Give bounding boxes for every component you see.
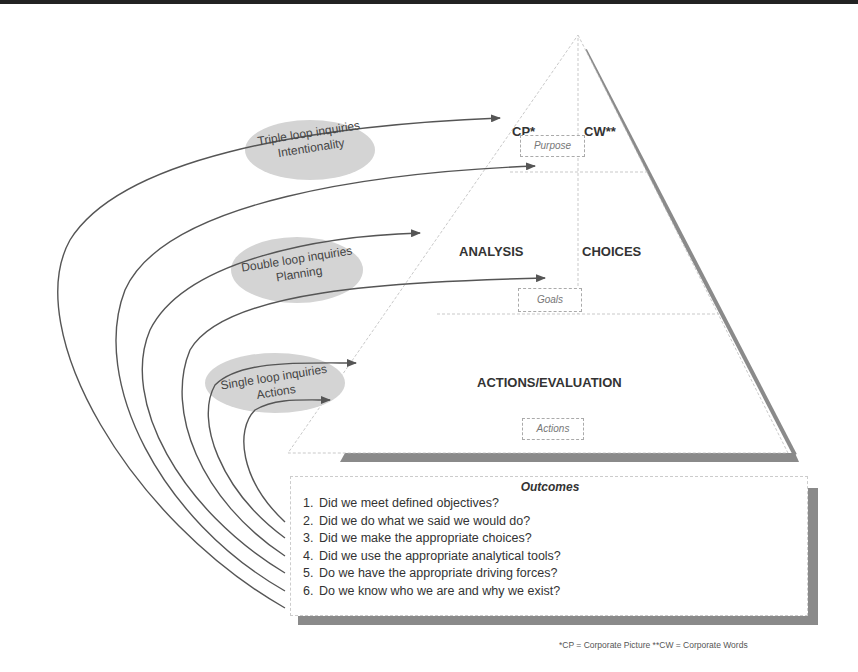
choices-label: CHOICES xyxy=(582,244,641,259)
footnote: *CP = Corporate Picture **CW = Corporate… xyxy=(559,640,748,650)
outcomes-title: Outcomes xyxy=(291,480,809,494)
outcome-text: Did we do what we said we would do? xyxy=(319,514,530,528)
outcome-text: Do we have the appropriate driving force… xyxy=(319,566,557,580)
outcome-item: 5.Do we have the appropriate driving for… xyxy=(303,565,561,583)
outcome-item: 1.Did we meet defined objectives? xyxy=(303,495,561,513)
pyramid xyxy=(288,35,788,453)
outcome-num: 1. xyxy=(303,495,319,513)
outcome-num: 6. xyxy=(303,583,319,601)
outcome-text: Did we meet defined objectives? xyxy=(319,496,499,510)
outcome-text: Do we know who we are and why we exist? xyxy=(319,584,560,598)
outcome-item: 3.Did we make the appropriate choices? xyxy=(303,530,561,548)
outcome-text: Did we use the appropriate analytical to… xyxy=(319,549,561,563)
analysis-label: ANALYSIS xyxy=(459,244,524,259)
outcomes-shadow-bottom xyxy=(298,615,818,625)
outcome-text: Did we make the appropriate choices? xyxy=(319,531,532,545)
outcome-item: 6.Do we know who we are and why we exist… xyxy=(303,583,561,601)
actions-box: Actions xyxy=(522,418,584,440)
outcome-num: 4. xyxy=(303,548,319,566)
actions-evaluation-label: ACTIONS/EVALUATION xyxy=(477,375,622,390)
outcome-item: 2.Did we do what we said we would do? xyxy=(303,513,561,531)
cw-label: CW** xyxy=(584,124,616,139)
outcome-num: 3. xyxy=(303,530,319,548)
outcomes-box: Outcomes 1.Did we meet defined objective… xyxy=(290,476,808,616)
outcome-num: 2. xyxy=(303,513,319,531)
outcome-num: 5. xyxy=(303,565,319,583)
outcomes-list: 1.Did we meet defined objectives? 2.Did … xyxy=(303,495,561,600)
goals-box: Goals xyxy=(518,288,582,312)
pyramid-shadow-bottom xyxy=(340,453,799,462)
outcomes-shadow-right xyxy=(808,488,818,625)
outcome-item: 4.Did we use the appropriate analytical … xyxy=(303,548,561,566)
purpose-box: Purpose xyxy=(520,135,585,157)
